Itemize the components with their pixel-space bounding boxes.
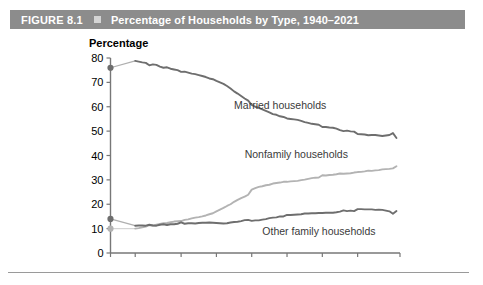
- line-chart-svg: 0102030405060708019401947196019701980199…: [0, 29, 483, 259]
- square-bullet-icon: [94, 16, 101, 23]
- y-tick-label: 20: [91, 198, 103, 210]
- y-tick-label: 0: [97, 247, 103, 259]
- series-annotation-label: Nonfamily households: [245, 148, 348, 160]
- y-tick-label: 70: [91, 76, 103, 88]
- y-tick-label: 60: [91, 101, 103, 113]
- chart-area: Percentage 01020304050607080194019471960…: [0, 29, 483, 259]
- series-annotation-label: Married households: [234, 99, 326, 111]
- series-annotation-label: Other family households: [262, 225, 375, 237]
- y-tick-label: 40: [91, 150, 103, 162]
- series-start-connector: [111, 219, 136, 226]
- data-series-line: [135, 209, 396, 226]
- bottom-divider: [8, 272, 469, 273]
- y-tick-label: 80: [91, 52, 103, 64]
- figure-number-label: FIGURE 8.1: [21, 14, 83, 26]
- y-tick-label: 10: [91, 223, 103, 235]
- y-tick-label: 30: [91, 174, 103, 186]
- figure-header: FIGURE 8.1 Percentage of Households by T…: [10, 10, 465, 29]
- y-tick-label: 50: [91, 125, 103, 137]
- series-start-connector: [111, 61, 136, 68]
- figure-title: Percentage of Households by Type, 1940–2…: [111, 14, 359, 26]
